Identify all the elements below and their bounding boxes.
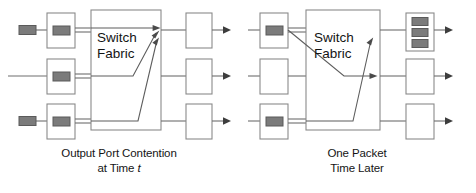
route-arrowhead-1 (370, 73, 378, 79)
routing-arrowheads-left (152, 25, 161, 46)
input-buffer-packet-1 (266, 26, 283, 35)
route-arrowhead-2 (367, 38, 374, 46)
egress-arrowhead-1 (445, 26, 453, 34)
switch-fabric-label-line2: Fabric (314, 46, 352, 61)
caption-left: Output Port Contention at Time t (0, 146, 238, 176)
input-buffer-packet-3 (53, 117, 70, 126)
egress-arrowhead-3 (223, 117, 231, 125)
input-buffer-packet-3 (266, 117, 283, 126)
output-port-box-3 (186, 104, 212, 139)
caption-left-line2-prefix: at Time (97, 162, 137, 174)
output-port-box-2 (406, 59, 434, 94)
routing-arrowheads-right (367, 38, 378, 80)
input-buffer-packet-2 (53, 72, 70, 81)
output-queue-packet-3 (412, 40, 428, 48)
buffered-packets-right (266, 26, 283, 126)
egress-arrowheads (445, 26, 453, 125)
caption-left-line2: at Time t (0, 161, 238, 176)
output-port-box-2 (186, 59, 212, 94)
switch-fabric-figure: Switch Fabric (0, 0, 476, 193)
caption-right: One Packet Time Later (238, 146, 476, 176)
caption-left-line1: Output Port Contention (0, 146, 238, 161)
route-arrowhead-2 (152, 31, 160, 39)
switch-fabric-label-line1: Switch (314, 30, 354, 45)
input-buffer-packet-1 (53, 26, 70, 35)
output-port-box-1 (186, 13, 212, 48)
switch-fabric-label-line1: Switch (97, 30, 137, 45)
egress-arrowheads (223, 26, 231, 125)
egress-arrowhead-1 (223, 26, 231, 34)
buffered-packets-left (53, 26, 70, 126)
caption-left-line2-italic: t (138, 162, 141, 174)
switch-fabric-box (306, 10, 380, 130)
egress-arrowhead-3 (445, 117, 453, 125)
route-arrowhead-1 (153, 25, 161, 31)
egress-arrowhead-2 (223, 72, 231, 80)
caption-right-line2: Time Later (238, 161, 476, 176)
incoming-packet-3 (19, 117, 36, 126)
right-diagram-svg: Switch Fabric (238, 0, 476, 146)
left-diagram-svg: Switch Fabric (0, 0, 238, 146)
output-queue-packets (412, 18, 428, 48)
caption-right-line1: One Packet (238, 146, 476, 161)
input-port-box-2 (260, 59, 288, 94)
incoming-packet-1 (19, 26, 36, 35)
output-port-box-3 (406, 104, 434, 139)
switch-fabric-label-line2: Fabric (97, 46, 135, 61)
output-queue-packet-2 (412, 29, 428, 37)
egress-arrowhead-2 (445, 72, 453, 80)
output-queue-packet-1 (412, 18, 428, 26)
